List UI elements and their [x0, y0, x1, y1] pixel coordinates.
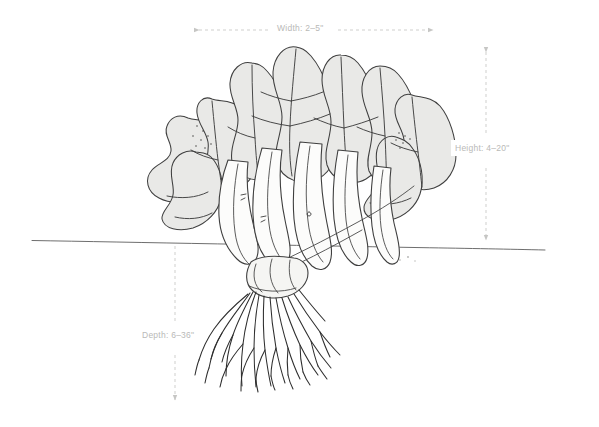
width-dimension-label: Width: 2–5"	[272, 23, 328, 33]
root-system	[195, 290, 340, 392]
height-dimension-label: Height: 4–20"	[451, 140, 513, 156]
illustration-canvas	[0, 0, 599, 427]
plant-dimension-diagram: Width: 2–5" Height: 4–20" Depth: 6–36"	[0, 0, 599, 427]
depth-dimension-label: Depth: 6–36"	[138, 327, 198, 343]
